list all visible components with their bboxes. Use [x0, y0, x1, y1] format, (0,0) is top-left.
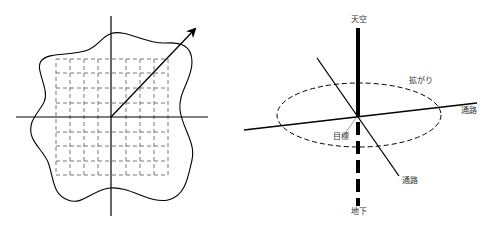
right-diagram: [244, 28, 477, 206]
label-passage-right: 通路: [461, 107, 477, 115]
label-spread: 拡がり: [409, 77, 433, 85]
label-passage-bottom: 通路: [402, 177, 418, 185]
label-sky: 天空: [351, 16, 367, 24]
label-underground: 地下: [351, 208, 367, 216]
diagram-canvas: [0, 0, 488, 234]
passage-horizontal: [244, 103, 477, 130]
label-target: 目標: [333, 133, 349, 141]
left-diagram: [16, 16, 208, 216]
